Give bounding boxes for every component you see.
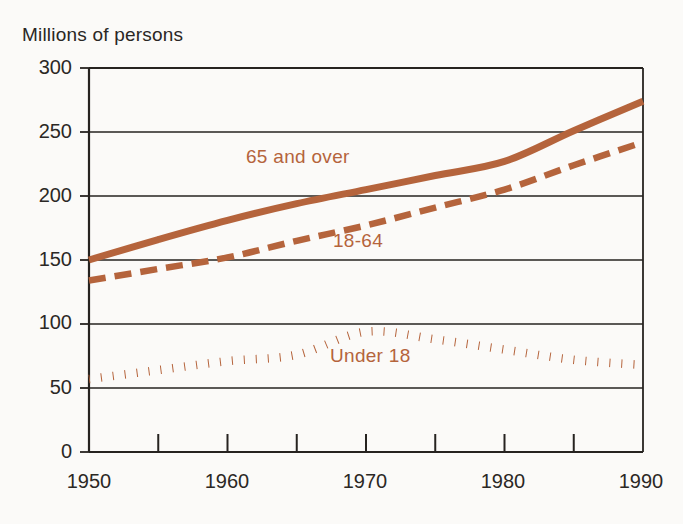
series-line-2	[89, 331, 643, 379]
chart-container: Millions of persons 300 250 200 150 100 …	[0, 0, 683, 524]
plot-area	[0, 0, 683, 524]
series-line-0	[89, 101, 643, 260]
